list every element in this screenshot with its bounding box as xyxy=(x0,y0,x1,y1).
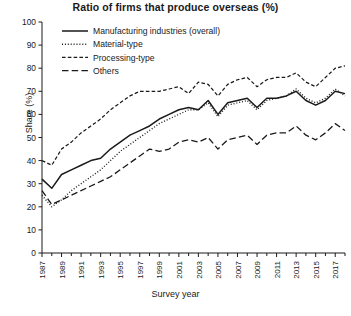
axis-lines xyxy=(42,22,345,253)
x-tick-label: 2009 xyxy=(253,260,262,278)
y-tick-label: 70 xyxy=(27,86,37,96)
x-tick-label: 2017 xyxy=(331,260,340,278)
data-series-group xyxy=(42,66,345,207)
x-tick-label: 2011 xyxy=(273,260,282,278)
legend-label-1: Material-type xyxy=(93,39,143,49)
legend-label-2: Processing-type xyxy=(93,53,155,63)
x-tick-label: 1987 xyxy=(38,260,47,278)
x-tick-label: 1989 xyxy=(58,260,67,278)
y-tick-label: 60 xyxy=(27,109,37,119)
y-axis-ticks: 0102030405060708090100 xyxy=(22,17,42,258)
x-tick-label: 1997 xyxy=(136,260,145,278)
y-tick-label: 30 xyxy=(27,179,37,189)
x-tick-label: 1995 xyxy=(116,260,125,278)
series-line-1 xyxy=(42,89,345,207)
series-line-0 xyxy=(42,91,345,188)
y-tick-label: 40 xyxy=(27,156,37,166)
series-line-3 xyxy=(42,124,345,205)
legend-label-0: Manufacturing industries (overall) xyxy=(93,26,220,36)
x-tick-label: 2003 xyxy=(195,260,204,278)
x-tick-label: 2005 xyxy=(214,260,223,278)
y-tick-label: 10 xyxy=(27,225,37,235)
chart-figure: Ratio of firms that produce overseas (%)… xyxy=(0,0,351,316)
x-tick-label: 2001 xyxy=(175,260,184,278)
x-tick-label: 2007 xyxy=(234,260,243,278)
y-tick-label: 90 xyxy=(27,40,37,50)
x-axis-ticks: 1987198919911993199519971999200120032005… xyxy=(38,253,345,279)
y-tick-label: 80 xyxy=(27,63,37,73)
x-tick-label: 2013 xyxy=(292,260,301,278)
y-tick-label: 50 xyxy=(27,133,37,143)
legend-label-3: Others xyxy=(93,66,119,76)
chart-legend: Manufacturing industries (overall)Materi… xyxy=(62,26,220,76)
y-tick-label: 100 xyxy=(22,17,36,27)
y-tick-label: 20 xyxy=(27,202,37,212)
chart-svg: 0102030405060708090100 19871989199119931… xyxy=(0,0,351,316)
plot-area: 0102030405060708090100 19871989199119931… xyxy=(0,0,351,316)
y-tick-label: 0 xyxy=(31,248,36,258)
x-tick-label: 2015 xyxy=(312,260,321,278)
series-line-2 xyxy=(42,66,345,165)
x-tick-label: 1999 xyxy=(155,260,164,278)
x-tick-label: 1991 xyxy=(77,260,86,278)
x-tick-label: 1993 xyxy=(97,260,106,278)
